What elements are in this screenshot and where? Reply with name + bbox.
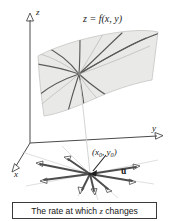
base-point-label: (x0, y0) [92, 148, 117, 158]
surface-patch [37, 31, 160, 121]
unit-vector-u-label: u [121, 167, 126, 177]
directional-derivative-figure: z y x z = f(x, y) (x0, y0) u The rate at… [0, 0, 169, 221]
caption-text-before: The rate at which [31, 206, 99, 216]
caption-text: The rate at which z changes [31, 206, 138, 216]
point-paren-close: ) [114, 147, 117, 157]
caption-box: The rate at which z changes [12, 202, 157, 219]
y-axis-label: y [152, 124, 156, 133]
base-point-marker [89, 173, 92, 176]
figure-canvas [0, 0, 169, 221]
caption-text-after: changes [103, 206, 138, 216]
z-axis-label: z [36, 8, 40, 17]
surface-equation-label: z = f(x, y) [83, 14, 122, 24]
x-axis-label: x [14, 170, 18, 179]
x-axis [12, 143, 30, 172]
z-axis [27, 13, 34, 143]
y-axis [30, 133, 163, 144]
